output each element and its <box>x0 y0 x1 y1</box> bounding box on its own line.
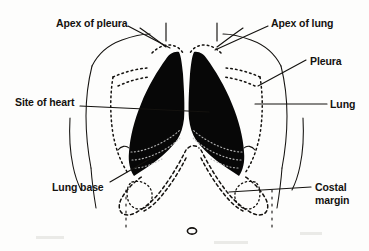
label-apex-of-pleura: Apex of pleura <box>56 17 128 30</box>
leader-apex-of-pleura <box>128 26 170 48</box>
lower-guides <box>126 190 272 232</box>
leader-costal-margin <box>229 187 311 192</box>
anatomy-figure: Apex of pleura Apex of lung Pleura Lung … <box>0 0 369 251</box>
scan-speckle <box>36 232 322 244</box>
label-pleura: Pleura <box>310 55 342 68</box>
left-lung <box>189 52 245 176</box>
umbilicus <box>187 228 196 234</box>
label-lung-base: Lung base <box>52 181 104 194</box>
torso-outline <box>70 34 304 208</box>
anatomical-diagram <box>0 0 369 251</box>
label-costal-margin: Costal margin <box>315 181 349 206</box>
clavicle-marks <box>140 23 243 47</box>
leader-pleura <box>258 60 306 86</box>
label-apex-of-lung: Apex of lung <box>271 17 333 30</box>
label-site-of-heart: Site of heart <box>15 96 74 109</box>
right-lung <box>129 52 185 176</box>
label-lung: Lung <box>330 98 355 111</box>
